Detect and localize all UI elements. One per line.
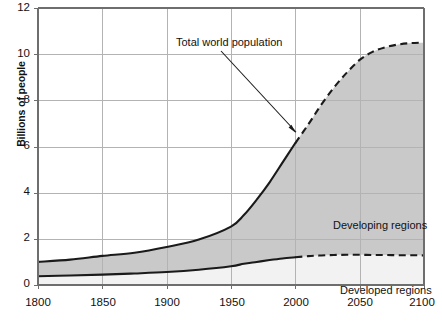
population-projection-chart: Billions of people 12 10 8 6 4 2 0 1800 … bbox=[0, 0, 442, 323]
y-tick-label-4: 4 bbox=[4, 185, 30, 197]
annotation-total-world-population: Total world population bbox=[176, 36, 282, 48]
y-tick-label-6: 6 bbox=[4, 139, 30, 151]
y-tick-label-8: 8 bbox=[4, 93, 30, 105]
x-tick-label-1800: 1800 bbox=[8, 296, 68, 308]
label-developed-regions: Developed regions bbox=[340, 284, 432, 296]
y-tick-label-2: 2 bbox=[4, 231, 30, 243]
y-tick-label-12: 12 bbox=[4, 1, 30, 13]
y-tick-label-10: 10 bbox=[4, 47, 30, 59]
label-developing-regions: Developing regions bbox=[333, 219, 427, 231]
x-tick-label-1950: 1950 bbox=[202, 296, 262, 308]
y-tick-label-0: 0 bbox=[4, 277, 30, 289]
x-tick-label-1900: 1900 bbox=[137, 296, 197, 308]
x-tick-label-2050: 2050 bbox=[330, 296, 390, 308]
x-tick-label-2100: 2100 bbox=[392, 296, 442, 308]
chart-canvas bbox=[0, 0, 442, 323]
x-tick-label-1850: 1850 bbox=[73, 296, 133, 308]
x-tick-label-2000: 2000 bbox=[266, 296, 326, 308]
